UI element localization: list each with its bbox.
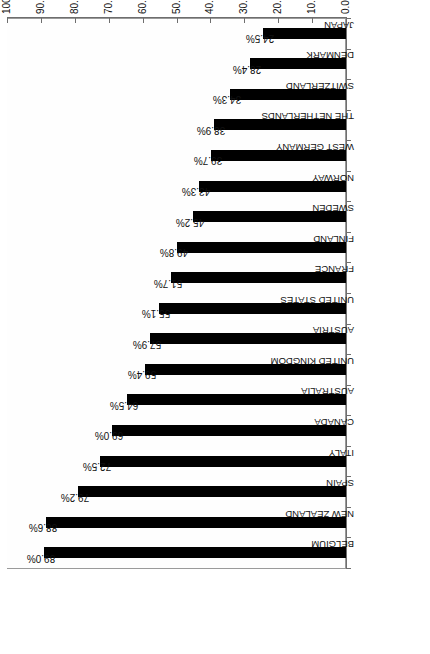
- value-tick: [210, 17, 211, 23]
- bar: 64.5%: [7, 394, 346, 405]
- bar: 45.2%: [7, 211, 346, 222]
- bar: 79.2%: [7, 486, 346, 497]
- bar-value-label: 28.4%: [233, 64, 261, 74]
- bar-value-label: 49.8%: [160, 247, 188, 257]
- bar-value-label: 88.6%: [28, 522, 56, 532]
- bar-value-label: 24.5%: [246, 33, 274, 43]
- bar-value-label: 89.0%: [27, 553, 55, 563]
- category-tick: [346, 79, 351, 80]
- value-tick-label: 70.0%: [104, 0, 114, 14]
- bar-value-label: 38.9%: [197, 125, 225, 135]
- bar-value-label: 57.9%: [133, 339, 161, 349]
- category-tick: [346, 507, 351, 508]
- category-axis-labels: BELGIUMNEW ZEALANDSPAINITALYCANADAAUSTRA…: [352, 18, 422, 568]
- value-tick-label: 10.0%: [307, 0, 317, 14]
- bar-value-label: 79.2%: [60, 492, 88, 502]
- bar: 51.7%: [7, 272, 346, 283]
- chart-canvas: 89.0%88.6%79.2%72.5%69.0%64.5%59.4%57.9%…: [0, 0, 430, 654]
- value-tick-label: 90.0%: [36, 0, 46, 14]
- bar-value-label: 69.0%: [95, 431, 123, 441]
- value-tick: [278, 17, 279, 23]
- bar: 49.8%: [7, 242, 346, 253]
- bar-value-label: 64.5%: [110, 400, 138, 410]
- value-tick: [7, 17, 8, 23]
- value-tick: [109, 17, 110, 23]
- value-tick-label: 20.0%: [273, 0, 283, 14]
- value-tick: [346, 17, 347, 23]
- category-tick: [346, 232, 351, 233]
- bar: 72.5%: [7, 456, 346, 467]
- value-tick-label: 80.0%: [70, 0, 80, 14]
- value-tick-label: 100.0%: [2, 0, 12, 14]
- value-axis-ticks: [7, 17, 347, 23]
- bar: 24.5%: [7, 28, 346, 39]
- bar-rect: [44, 547, 346, 558]
- bar: 89.0%: [7, 547, 346, 558]
- bar-value-label: 72.5%: [83, 461, 111, 471]
- value-tick-label: 30.0%: [239, 0, 249, 14]
- bar-rect: [112, 425, 346, 436]
- bar-value-label: 39.7%: [194, 156, 222, 166]
- value-tick: [312, 17, 313, 23]
- bar-rect: [78, 486, 346, 497]
- bar: 69.0%: [7, 425, 346, 436]
- value-tick: [177, 17, 178, 23]
- value-tick: [75, 17, 76, 23]
- category-tick: [346, 446, 351, 447]
- value-tick-label: 40.0%: [205, 0, 215, 14]
- bar-value-label: 55.1%: [142, 308, 170, 318]
- category-tick: [346, 293, 351, 294]
- bar-value-label: 34.3%: [213, 94, 241, 104]
- bar-value-label: 45.2%: [176, 217, 204, 227]
- bar-series: 89.0%88.6%79.2%72.5%69.0%64.5%59.4%57.9%…: [7, 18, 346, 568]
- category-tick: [346, 568, 351, 569]
- bar-value-label: 43.3%: [182, 186, 210, 196]
- bar-value-label: 59.4%: [127, 369, 155, 379]
- bar-value-label: 51.7%: [154, 278, 182, 288]
- value-tick: [244, 17, 245, 23]
- bar: 57.9%: [7, 333, 346, 344]
- category-tick: [346, 171, 351, 172]
- value-tick-label: 50.0%: [172, 0, 182, 14]
- value-tick: [41, 17, 42, 23]
- value-tick: [143, 17, 144, 23]
- bar-rect: [100, 456, 346, 467]
- value-tick-label: 60.0%: [138, 0, 148, 14]
- bar: 43.3%: [7, 181, 346, 192]
- category-tick: [346, 354, 351, 355]
- bar: 28.4%: [7, 58, 346, 69]
- value-tick-label: 0.0%: [341, 0, 351, 14]
